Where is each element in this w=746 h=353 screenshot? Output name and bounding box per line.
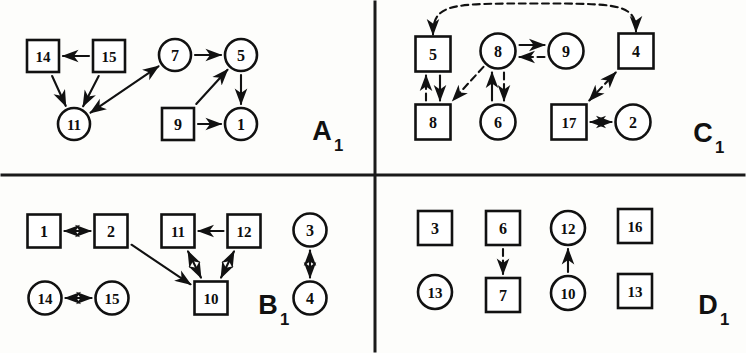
node-d-13c[interactable]: 13 bbox=[418, 275, 452, 309]
node-b-3[interactable]: 3 bbox=[294, 214, 327, 247]
node-label: 12 bbox=[237, 224, 252, 240]
node-label: 13 bbox=[428, 285, 443, 301]
node-d-12[interactable]: 12 bbox=[551, 211, 585, 245]
node-label: 1 bbox=[40, 223, 48, 240]
panel-subscript: 1 bbox=[715, 138, 724, 157]
node-label: 7 bbox=[171, 47, 179, 64]
node-label: 8 bbox=[494, 43, 502, 60]
node-label: 4 bbox=[306, 290, 314, 307]
panel-label-A1: A1 bbox=[312, 116, 343, 155]
edge-b-2-to-b-10 bbox=[132, 245, 191, 285]
node-label: 8 bbox=[429, 114, 437, 131]
edge-a-14-to-a-11 bbox=[52, 76, 66, 106]
node-label: 12 bbox=[561, 221, 576, 237]
node-label: 6 bbox=[499, 220, 507, 237]
edge-c-5-to-c-4 bbox=[433, 4, 636, 35]
node-a-11[interactable]: 11 bbox=[58, 108, 90, 140]
node-label: 14 bbox=[36, 49, 52, 65]
node-d-7[interactable]: 7 bbox=[486, 278, 520, 312]
node-c-6[interactable]: 6 bbox=[481, 105, 516, 140]
node-label: 7 bbox=[499, 287, 507, 304]
node-d-6[interactable]: 6 bbox=[486, 211, 520, 245]
node-c-5[interactable]: 5 bbox=[416, 37, 451, 72]
node-b-2[interactable]: 2 bbox=[95, 215, 128, 248]
node-label: 15 bbox=[105, 291, 120, 307]
panel-subscript: 1 bbox=[280, 310, 289, 329]
node-b-10[interactable]: 10 bbox=[195, 282, 228, 315]
node-label: 1 bbox=[237, 116, 245, 133]
node-label: 13 bbox=[628, 284, 643, 300]
graph-figure: 1415117591589486172121112314151043612161… bbox=[0, 0, 746, 353]
node-c-9[interactable]: 9 bbox=[549, 34, 584, 69]
node-a-15[interactable]: 15 bbox=[93, 40, 125, 72]
node-label: 9 bbox=[562, 43, 570, 60]
node-label: 4 bbox=[632, 43, 640, 60]
panel-subscript: 1 bbox=[720, 310, 729, 329]
node-b-11[interactable]: 11 bbox=[162, 215, 195, 248]
node-b-4[interactable]: 4 bbox=[294, 282, 327, 315]
panel-label-C1: C1 bbox=[693, 118, 724, 157]
edge-b-12-to-b-10 bbox=[221, 252, 234, 278]
node-label: 15 bbox=[102, 49, 117, 65]
node-c-8b[interactable]: 8 bbox=[416, 105, 451, 140]
node-d-10[interactable]: 10 bbox=[551, 276, 585, 310]
node-c-4[interactable]: 4 bbox=[619, 34, 654, 69]
panel-label-B1: B1 bbox=[258, 290, 289, 329]
node-label: 3 bbox=[431, 220, 439, 237]
figure-canvas: 1415117591589486172121112314151043612161… bbox=[0, 0, 746, 353]
node-d-3[interactable]: 3 bbox=[418, 211, 452, 245]
node-b-1[interactable]: 1 bbox=[28, 215, 61, 248]
node-label: 9 bbox=[174, 116, 182, 133]
node-a-5[interactable]: 5 bbox=[225, 39, 257, 71]
node-label: 11 bbox=[67, 117, 81, 133]
node-label: 5 bbox=[429, 46, 437, 63]
node-b-14[interactable]: 14 bbox=[29, 282, 62, 315]
panel-letter: C bbox=[693, 118, 713, 148]
node-a-7[interactable]: 7 bbox=[159, 39, 191, 71]
node-label: 14 bbox=[38, 291, 54, 307]
panel-subscript: 1 bbox=[334, 136, 343, 155]
node-b-15[interactable]: 15 bbox=[96, 282, 129, 315]
edge-c-8t-to-c-8b bbox=[453, 67, 484, 101]
node-label: 10 bbox=[204, 291, 219, 307]
edge-a-15-to-a-11 bbox=[83, 76, 99, 106]
node-label: 10 bbox=[561, 286, 576, 302]
node-c-17[interactable]: 17 bbox=[552, 105, 587, 140]
edge-b-11-to-b-10 bbox=[188, 252, 201, 278]
node-label: 17 bbox=[562, 115, 578, 131]
node-d-13s[interactable]: 13 bbox=[618, 274, 652, 308]
panel-label-D1: D1 bbox=[698, 290, 729, 329]
node-label: 3 bbox=[306, 222, 314, 239]
node-label: 6 bbox=[494, 114, 502, 131]
panel-letter: A bbox=[312, 116, 332, 146]
node-label: 16 bbox=[628, 219, 644, 235]
node-a-1[interactable]: 1 bbox=[225, 108, 257, 140]
panel-letter: B bbox=[258, 290, 278, 320]
edge-c-17-to-c-4 bbox=[589, 73, 615, 101]
node-c-8t[interactable]: 8 bbox=[481, 34, 516, 69]
panel-letter: D bbox=[698, 290, 718, 320]
node-label: 11 bbox=[171, 224, 185, 240]
edge-a-9-to-a-5 bbox=[196, 70, 227, 104]
node-b-12[interactable]: 12 bbox=[228, 215, 261, 248]
node-d-16[interactable]: 16 bbox=[618, 209, 652, 243]
node-a-14[interactable]: 14 bbox=[27, 40, 59, 72]
node-c-2[interactable]: 2 bbox=[616, 105, 651, 140]
node-label: 2 bbox=[629, 114, 637, 131]
node-a-9[interactable]: 9 bbox=[162, 108, 194, 140]
node-label: 5 bbox=[237, 47, 245, 64]
node-label: 2 bbox=[107, 223, 115, 240]
